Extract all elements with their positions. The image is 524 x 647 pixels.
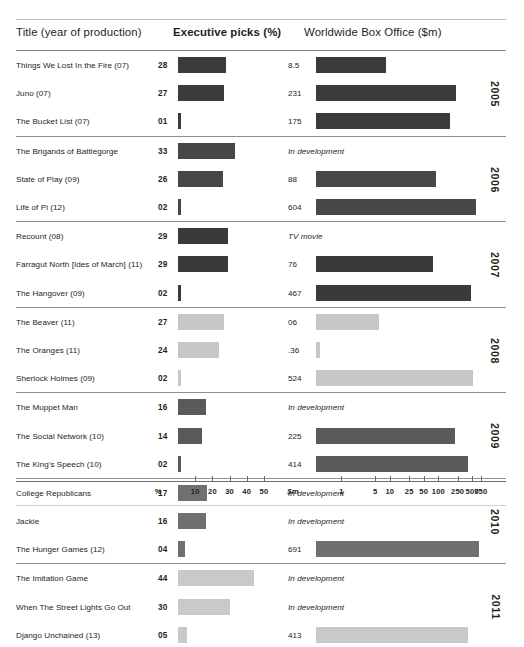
boxoffice-bar xyxy=(316,342,320,358)
boxoffice-status: In development xyxy=(288,146,344,155)
row-title: The Imitation Game xyxy=(16,574,88,583)
axis-tick xyxy=(390,476,391,481)
picks-value: 27 xyxy=(158,317,168,326)
row-title: The Oranges (11) xyxy=(16,345,80,354)
row-title: The Hunger Games (12) xyxy=(16,545,105,554)
picks-value: 44 xyxy=(158,574,168,583)
axis-tick-label: 10 xyxy=(191,487,200,496)
table-row[interactable]: When The Street Lights Go Out30In develo… xyxy=(16,593,506,621)
axis-tick-label: 100 xyxy=(432,487,445,496)
axis-tick-label: 750 xyxy=(474,487,487,496)
picks-bar xyxy=(178,199,181,215)
table-row[interactable]: Sherlock Holmes (09)02524 xyxy=(16,364,506,392)
picks-value: 28 xyxy=(158,61,168,70)
table-row[interactable]: The Brigands of Battlegorge33In developm… xyxy=(16,137,506,165)
table-row[interactable]: Django Unchained (13)05413 xyxy=(16,621,506,647)
row-title: Things We Lost In the Fire (07) xyxy=(16,61,129,70)
table-row[interactable]: The Muppet Man16In development2009 xyxy=(16,393,506,421)
header-picks-column: Executive picks (%) xyxy=(173,26,281,38)
picks-bar xyxy=(178,399,206,415)
boxoffice-status: In development xyxy=(288,517,344,526)
axis-tick xyxy=(424,476,425,481)
boxoffice-bar xyxy=(316,370,473,386)
row-title: Django Unchained (13) xyxy=(16,630,100,639)
picks-value: 30 xyxy=(158,602,168,611)
boxoffice-bar xyxy=(316,199,476,215)
axis-tick-label: 1 xyxy=(339,487,343,496)
picks-bar xyxy=(178,256,228,272)
axis-tick xyxy=(264,476,265,481)
picks-bar xyxy=(178,285,181,301)
row-title: Recount (08) xyxy=(16,232,63,241)
boxoffice-bar xyxy=(316,113,450,129)
table-row[interactable]: The Imitation Game44In development2011 xyxy=(16,564,506,592)
table-row[interactable]: The Hunger Games (12)04691 xyxy=(16,535,506,563)
picks-bar xyxy=(178,456,181,472)
boxoffice-value: 524 xyxy=(288,374,302,383)
axis: %1020304050$m15102550100250500750 xyxy=(16,481,506,511)
picks-bar xyxy=(178,171,223,187)
picks-value: 29 xyxy=(158,260,168,269)
axis-tick xyxy=(230,476,231,481)
table-row[interactable]: Life of Pi (12)02604 xyxy=(16,193,506,221)
table-row[interactable]: Jackie16In development xyxy=(16,507,506,535)
picks-bar xyxy=(178,314,224,330)
picks-bar xyxy=(178,228,228,244)
row-title: Juno (07) xyxy=(16,89,51,98)
boxoffice-value: 414 xyxy=(288,459,302,468)
table-row[interactable]: The Social Network (10)14225 xyxy=(16,421,506,449)
table-row[interactable]: The Hangover (09)02467 xyxy=(16,279,506,307)
picks-value: 04 xyxy=(158,545,168,554)
axis-tick xyxy=(472,476,473,481)
header-title-column: Title (year of production) xyxy=(16,26,142,38)
picks-bar xyxy=(178,541,185,557)
picks-value: 02 xyxy=(158,374,168,383)
header-boxoffice-column: Worldwide Box Office ($m) xyxy=(304,26,442,38)
table-row[interactable]: Things We Lost In the Fire (07)288.52005 xyxy=(16,51,506,79)
picks-value: 29 xyxy=(158,232,168,241)
picks-value: 05 xyxy=(158,630,168,639)
picks-value: 33 xyxy=(158,146,168,155)
row-title: When The Street Lights Go Out xyxy=(16,602,131,611)
boxoffice-status: In development xyxy=(288,574,344,583)
axis-tick-label: 25 xyxy=(405,487,414,496)
boxoffice-value: 175 xyxy=(288,117,302,126)
bottom-rule xyxy=(16,505,506,506)
table-row[interactable]: The King's Speech (10)02414 xyxy=(16,450,506,478)
axis-line xyxy=(16,481,506,482)
boxoffice-value: 691 xyxy=(288,545,302,554)
boxoffice-value: 413 xyxy=(288,630,302,639)
table-row[interactable]: Farragut North [Ides of March] (11)2976 xyxy=(16,250,506,278)
boxoffice-value: 231 xyxy=(288,89,302,98)
boxoffice-bar xyxy=(316,85,456,101)
axis-tick xyxy=(375,476,376,481)
row-title: The Bucket List (07) xyxy=(16,117,89,126)
table-row[interactable]: The Beaver (11)27062008 xyxy=(16,308,506,336)
boxoffice-bar xyxy=(316,428,455,444)
boxoffice-value: 88 xyxy=(288,174,297,183)
year-group: The Beaver (11)27062008The Oranges (11)2… xyxy=(16,308,506,393)
top-rule xyxy=(16,19,506,20)
table-row[interactable]: Recount (08)29TV movie2007 xyxy=(16,222,506,250)
picks-bar xyxy=(178,143,235,159)
boxoffice-bar xyxy=(316,285,471,301)
boxoffice-value: .36 xyxy=(288,345,299,354)
boxoffice-status: In development xyxy=(288,403,344,412)
table-row[interactable]: State of Play (09)2688 xyxy=(16,165,506,193)
table-row[interactable]: Juno (07)27231 xyxy=(16,79,506,107)
table-row[interactable]: The Bucket List (07)01175 xyxy=(16,107,506,135)
table-row[interactable]: The Oranges (11)24.36 xyxy=(16,336,506,364)
row-title: The Muppet Man xyxy=(16,403,78,412)
column-header: Title (year of production) Executive pic… xyxy=(16,26,506,50)
boxoffice-bar xyxy=(316,171,436,187)
chart-body: Things We Lost In the Fire (07)288.52005… xyxy=(16,51,506,647)
boxoffice-bar xyxy=(316,314,379,330)
picks-value: 16 xyxy=(158,403,168,412)
picks-bar xyxy=(178,428,202,444)
picks-bar xyxy=(178,627,187,643)
row-title: The Beaver (11) xyxy=(16,317,75,326)
boxoffice-value: 06 xyxy=(288,317,297,326)
boxoffice-bar xyxy=(316,57,386,73)
row-title: Farragut North [Ides of March] (11) xyxy=(16,260,142,269)
picks-bar xyxy=(178,513,206,529)
